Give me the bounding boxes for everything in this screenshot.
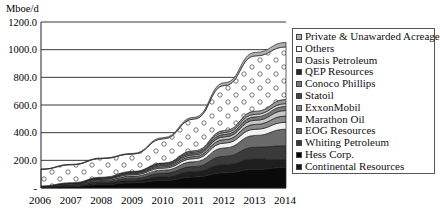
x-tick-label: 2006 [29,194,52,206]
x-tick-label: 2013 [243,194,266,206]
legend-swatch-icon [296,93,302,99]
legend-item: ExxonMobil [296,102,434,114]
y-tick-label: 200.0 [13,155,37,166]
legend-swatch-icon [296,57,302,63]
y-axis-unit-label: Mboe/d [6,3,39,14]
y-tick-label: 1000.0 [8,44,37,55]
legend-swatch-icon [296,116,302,122]
legend-swatch-icon [296,69,302,75]
legend-label: Hess Corp. [305,149,354,161]
legend-item: Hess Corp. [296,149,434,161]
y-tick-label: 400.0 [13,127,37,138]
legend-label: Continental Resources [305,161,404,173]
legend-swatch-icon [296,152,302,158]
x-tick-label: 2012 [213,194,235,206]
legend-item: Statoil [296,90,434,102]
x-tick-label: 2014 [274,194,297,206]
legend-swatch-icon [296,81,302,87]
legend-label: Statoil [305,90,334,102]
legend-swatch-icon [296,164,302,170]
legend-swatch-icon [296,34,302,40]
legend-label: ExxonMobil [305,102,361,114]
y-tick-label: 800.0 [13,72,37,83]
legend-swatch-icon [296,128,302,134]
legend-item: Others [296,43,434,55]
x-tick-label: 2009 [121,194,144,206]
y-tick-label: - [34,183,38,194]
area-series [41,42,286,188]
legend-swatch-icon [296,46,302,52]
x-tick-label: 2010 [152,194,175,206]
legend-swatch-icon [296,105,302,111]
y-tick-label: 1200.0 [8,17,37,28]
legend-swatch-icon [296,140,302,146]
y-axis-ticks: 1200.01000.0800.0600.0400.0200.0- [8,17,37,194]
x-tick-label: 2007 [60,194,83,206]
x-tick-label: 2008 [90,194,113,206]
x-axis-ticks: 200620072008200920102011201220132014 [29,194,297,206]
legend-item: Continental Resources [296,161,434,173]
chart-legend: Private & Unawarded AcreageOthersOasis P… [292,28,435,174]
x-tick-label: 2011 [182,194,204,206]
y-tick-label: 600.0 [13,100,37,111]
legend-label: Others [305,43,334,55]
